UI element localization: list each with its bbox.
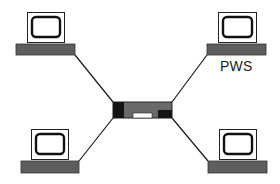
computer-base — [207, 44, 266, 55]
link-top-right — [172, 55, 207, 102]
computer-base — [208, 161, 267, 173]
computer-icon-bottom-left — [21, 130, 79, 174]
hub-port-slot — [133, 113, 152, 118]
computer-base — [16, 44, 75, 55]
computer-icon-bottom-right — [208, 130, 267, 174]
computer-base — [21, 161, 79, 173]
hub-left-block — [113, 102, 124, 118]
monitor-screen — [32, 17, 60, 37]
monitor-screen — [224, 134, 252, 154]
pws-label: PWS — [220, 59, 253, 73]
link-bottom-left — [79, 118, 113, 161]
monitor-screen — [36, 134, 64, 154]
network-diagram — [0, 0, 280, 184]
link-bottom-right — [172, 118, 208, 161]
hub-right-block — [158, 110, 172, 118]
link-top-left — [75, 55, 113, 102]
monitor-screen — [223, 17, 252, 37]
computer-icon-top-right — [207, 13, 266, 56]
computer-icon-top-left — [16, 13, 75, 56]
